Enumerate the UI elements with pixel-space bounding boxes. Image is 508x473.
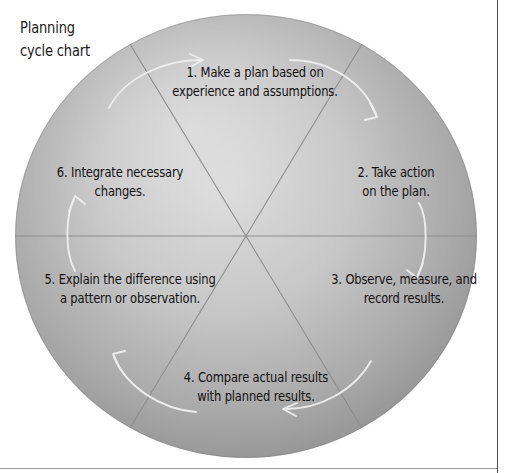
segment-label-1-line-1: 1. Make a plan based on — [165, 63, 345, 82]
page-right-rule — [497, 0, 498, 473]
page-bottom-rule — [0, 468, 497, 469]
segment-label-5-line-1: 5. Explain the difference using — [38, 270, 222, 289]
planning-cycle-chart-figure: Planning cycle chart — [0, 0, 508, 473]
page-title: Planning cycle chart — [20, 16, 152, 63]
segment-label-3-line-2: record results. — [328, 289, 479, 308]
segment-label-6-line-2: changes. — [48, 182, 192, 201]
segment-label-2-line-2: on the plan. — [337, 182, 456, 201]
segment-label-4-line-2: with planned results. — [170, 387, 343, 406]
segment-label-4[interactable]: 4. Compare actual results with planned r… — [160, 368, 352, 406]
segment-label-1-line-2: experience and assumptions. — [165, 82, 345, 101]
segment-label-3[interactable]: 3. Observe, measure, and record results. — [320, 270, 488, 308]
segment-label-5[interactable]: 5. Explain the difference using a patter… — [28, 270, 232, 308]
segment-label-6[interactable]: 6. Integrate necessary changes. — [40, 163, 200, 201]
segment-label-6-line-1: 6. Integrate necessary — [48, 163, 192, 182]
segment-label-5-line-2: a pattern or observation. — [38, 289, 222, 308]
segment-label-3-line-1: 3. Observe, measure, and — [328, 270, 479, 289]
segment-label-1[interactable]: 1. Make a plan based on experience and a… — [155, 63, 355, 101]
segment-label-4-line-1: 4. Compare actual results — [170, 368, 343, 387]
segment-label-2[interactable]: 2. Take action on the plan. — [330, 163, 462, 201]
segment-label-2-line-1: 2. Take action — [337, 163, 456, 182]
